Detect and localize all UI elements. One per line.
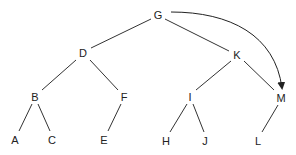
tree-diagram bbox=[0, 0, 296, 155]
edge-I-H bbox=[170, 104, 187, 132]
edge-I-J bbox=[193, 104, 204, 132]
node-D: D bbox=[79, 48, 87, 59]
node-L: L bbox=[255, 136, 261, 147]
node-J: J bbox=[202, 136, 208, 147]
node-G: G bbox=[154, 10, 163, 21]
node-C: C bbox=[48, 135, 56, 146]
node-H: H bbox=[162, 136, 170, 147]
edge-G-D bbox=[91, 19, 151, 48]
node-F: F bbox=[121, 92, 128, 103]
edge-F-E bbox=[108, 104, 121, 131]
node-E: E bbox=[100, 135, 107, 146]
edge-K-I bbox=[196, 61, 231, 90]
node-A: A bbox=[11, 135, 18, 146]
edge-G-K bbox=[165, 19, 229, 51]
node-I: I bbox=[188, 92, 191, 103]
edge-D-F bbox=[90, 60, 118, 90]
edge-B-C bbox=[38, 104, 50, 131]
edge-B-A bbox=[19, 104, 32, 131]
edge-K-M bbox=[244, 61, 274, 90]
edge-D-B bbox=[42, 60, 76, 90]
edge-M-L bbox=[262, 105, 278, 132]
node-B: B bbox=[31, 92, 38, 103]
node-K: K bbox=[233, 50, 240, 61]
node-M: M bbox=[276, 93, 285, 104]
